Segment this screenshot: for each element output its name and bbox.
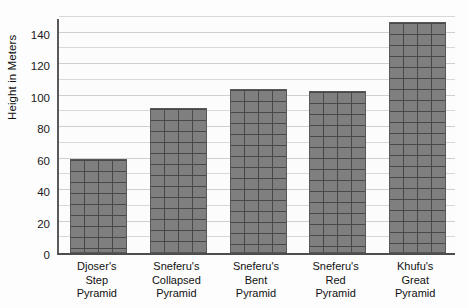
- x-axis-label: Sneferu's Red Pyramid: [296, 260, 376, 301]
- bar: [230, 89, 287, 253]
- y-tick-label: 60: [8, 155, 50, 167]
- bar: [150, 108, 207, 253]
- y-tick-label: 40: [8, 186, 50, 198]
- y-tick-label: 80: [8, 123, 50, 135]
- y-tick-label: 20: [8, 218, 50, 230]
- y-tick-label: 0: [8, 249, 50, 261]
- bar: [389, 22, 446, 253]
- x-axis-label: Sneferu's Collapsed Pyramid: [137, 260, 217, 301]
- bar: [309, 91, 366, 253]
- bar: [70, 159, 127, 253]
- plot-area: [57, 19, 455, 255]
- y-axis-title: Height in Meters: [6, 0, 18, 120]
- bar-chart: Height in Meters 020406080100120140 Djos…: [0, 0, 468, 308]
- x-axis-label: Djoser's Step Pyramid: [57, 260, 137, 301]
- x-axis-label: Sneferu's Bent Pyramid: [216, 260, 296, 301]
- gridline: [59, 16, 455, 17]
- x-axis-label: Khufu's Great Pyramid: [375, 260, 455, 301]
